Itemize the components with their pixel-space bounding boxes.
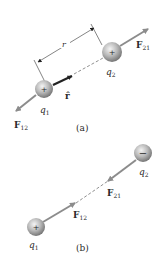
charge-sign: + bbox=[41, 85, 48, 94]
separation-dashed-line bbox=[76, 181, 108, 203]
unit-vector-r-hat-label: r̂ bbox=[65, 91, 70, 101]
force-f12-arrow bbox=[43, 203, 75, 222]
charge-q2-sphere: − bbox=[134, 144, 152, 162]
charge-q1-label: q1 bbox=[40, 105, 50, 116]
charge-q1-sphere: + bbox=[35, 80, 53, 98]
force-f21-arrow bbox=[108, 160, 136, 181]
dimension-extension-line bbox=[91, 24, 102, 45]
panel-a-caption: (a) bbox=[76, 123, 88, 133]
coulomb-force-diagram: r + + q1 q2 r̂ F21 F12 bbox=[0, 0, 160, 262]
panel-b-caption: (b) bbox=[76, 243, 89, 253]
separation-dashed-line bbox=[74, 58, 103, 74]
force-f12-label: F12 bbox=[73, 210, 87, 221]
charge-q1-sphere: + bbox=[27, 218, 45, 236]
charge-q1-label: q1 bbox=[29, 240, 39, 251]
charge-sign: − bbox=[139, 148, 147, 159]
charge-q2-label: q2 bbox=[139, 167, 149, 178]
force-f21-label: F21 bbox=[136, 40, 150, 51]
force-f21-label: F21 bbox=[107, 188, 121, 199]
force-f12-label: F12 bbox=[14, 120, 28, 131]
unit-vector-r-hat-arrow bbox=[53, 76, 72, 85]
panel-b: − + q2 F21 F12 q1 (b) bbox=[27, 144, 152, 253]
charge-sign: + bbox=[33, 223, 40, 232]
charge-q2-sphere: + bbox=[102, 42, 122, 62]
dimension-extension-line bbox=[34, 60, 45, 82]
charge-sign: + bbox=[109, 48, 116, 57]
panel-a: r + + q1 q2 r̂ F21 F12 bbox=[14, 24, 150, 133]
charge-q2-label: q2 bbox=[106, 67, 116, 78]
force-f12-arrow bbox=[16, 95, 36, 111]
